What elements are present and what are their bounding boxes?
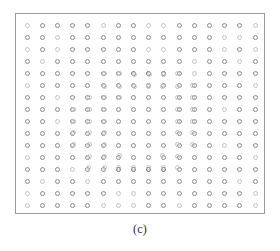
marker-circle bbox=[192, 71, 197, 76]
marker-circle bbox=[85, 35, 90, 40]
marker-circle bbox=[131, 107, 136, 112]
marker-circle bbox=[87, 95, 92, 100]
marker-circle bbox=[116, 107, 121, 112]
marker-circle bbox=[146, 203, 151, 208]
marker-circle bbox=[131, 119, 136, 124]
marker-circle bbox=[237, 47, 242, 52]
marker-circle bbox=[207, 83, 212, 88]
marker-circle bbox=[40, 71, 45, 76]
marker-circle bbox=[222, 23, 227, 28]
marker-circle bbox=[25, 47, 30, 52]
marker-circle bbox=[190, 83, 195, 88]
marker-circle bbox=[40, 131, 45, 136]
marker-circle bbox=[177, 179, 182, 184]
marker-circle bbox=[25, 167, 30, 172]
marker-circle bbox=[161, 131, 166, 136]
marker-circle bbox=[40, 23, 45, 28]
marker-circle bbox=[55, 167, 60, 172]
marker-circle bbox=[25, 119, 30, 124]
marker-circle bbox=[146, 165, 151, 170]
marker-circle bbox=[25, 179, 30, 184]
marker-circle bbox=[237, 95, 242, 100]
marker-circle bbox=[146, 84, 151, 89]
marker-circle bbox=[175, 142, 180, 147]
marker-circle bbox=[237, 23, 242, 28]
marker-circle bbox=[237, 167, 242, 172]
marker-circle bbox=[87, 130, 92, 135]
marker-circle bbox=[253, 143, 258, 148]
marker-circle bbox=[253, 71, 258, 76]
marker-circle bbox=[222, 203, 227, 208]
marker-circle bbox=[161, 23, 166, 28]
marker-circle bbox=[117, 153, 122, 158]
marker-circle bbox=[253, 203, 258, 208]
marker-circle bbox=[192, 155, 197, 160]
marker-circle bbox=[207, 119, 212, 124]
marker-circle bbox=[131, 59, 136, 64]
marker-circle bbox=[101, 203, 106, 208]
marker-circle bbox=[40, 143, 45, 148]
marker-circle bbox=[40, 155, 45, 160]
marker-circle bbox=[70, 191, 75, 196]
marker-circle bbox=[237, 143, 242, 148]
marker-circle bbox=[177, 47, 182, 52]
marker-circle bbox=[25, 71, 30, 76]
marker-circle bbox=[116, 59, 121, 64]
marker-circle bbox=[207, 107, 212, 112]
marker-circle bbox=[222, 119, 227, 124]
marker-circle bbox=[175, 84, 180, 89]
marker-circle bbox=[25, 155, 30, 160]
marker-circle bbox=[70, 23, 75, 28]
marker-circle bbox=[146, 191, 151, 196]
marker-circle bbox=[102, 119, 107, 124]
figure-caption: (c) bbox=[0, 222, 280, 237]
marker-circle bbox=[25, 35, 30, 40]
marker-circle bbox=[70, 203, 75, 208]
marker-circle bbox=[85, 23, 90, 28]
marker-circle bbox=[25, 95, 30, 100]
marker-circle bbox=[161, 179, 166, 184]
marker-circle bbox=[25, 59, 30, 64]
marker-circle bbox=[207, 95, 212, 100]
marker-circle bbox=[253, 59, 258, 64]
marker-circle bbox=[55, 179, 60, 184]
marker-circle bbox=[55, 59, 60, 64]
marker-circle bbox=[207, 23, 212, 28]
marker-circle bbox=[192, 59, 197, 64]
marker-circle bbox=[177, 203, 182, 208]
marker-circle bbox=[222, 47, 227, 52]
marker-circle bbox=[116, 23, 121, 28]
marker-circle bbox=[207, 179, 212, 184]
marker-circle bbox=[40, 119, 45, 124]
marker-circle bbox=[132, 84, 137, 89]
marker-circle bbox=[116, 35, 121, 40]
marker-circle bbox=[70, 71, 75, 76]
marker-circle bbox=[85, 191, 90, 196]
marker-circle bbox=[55, 23, 60, 28]
marker-circle bbox=[237, 59, 242, 64]
marker-circle bbox=[207, 203, 212, 208]
figure-root: (c) bbox=[0, 0, 280, 251]
marker-circle bbox=[222, 131, 227, 136]
marker-circle bbox=[25, 143, 30, 148]
marker-circle bbox=[161, 95, 166, 100]
marker-circle bbox=[160, 84, 165, 89]
marker-circle bbox=[131, 203, 136, 208]
marker-circle bbox=[146, 59, 151, 64]
marker-circle bbox=[40, 59, 45, 64]
marker-circle bbox=[70, 95, 75, 100]
marker-circle bbox=[253, 119, 258, 124]
marker-circle bbox=[101, 23, 106, 28]
marker-circle bbox=[146, 119, 151, 124]
marker-circle bbox=[222, 107, 227, 112]
marker-circle bbox=[192, 47, 197, 52]
marker-circle bbox=[71, 130, 76, 135]
marker-circle bbox=[102, 130, 107, 135]
marker-circle bbox=[55, 119, 60, 124]
marker-circle bbox=[102, 154, 107, 159]
marker-circle bbox=[101, 179, 106, 184]
marker-circle bbox=[101, 59, 106, 64]
marker-circle bbox=[131, 155, 136, 160]
marker-circle bbox=[116, 119, 121, 124]
marker-circle bbox=[55, 83, 60, 88]
